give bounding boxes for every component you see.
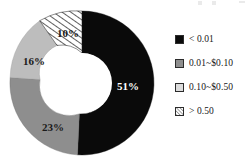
legend-label-gt-0-50: > 0.50: [189, 106, 214, 116]
slice-label-23: 23%: [42, 121, 64, 133]
legend-item-0-10-to-0-50[interactable]: 0.10~$0.50: [175, 81, 247, 93]
scan-artifact: [239, 1, 245, 3]
solid-black-swatch: [175, 35, 184, 44]
solid-light-gray-swatch: [175, 83, 184, 92]
hatched-swatch: [175, 107, 184, 116]
legend-item-lt-0-01[interactable]: < 0.01: [175, 33, 247, 45]
slice-label-16: 16%: [23, 55, 45, 67]
scan-artifact: [212, 1, 216, 5]
legend-item-gt-0-50[interactable]: > 0.50: [175, 105, 247, 117]
legend-item-0-01-to-0-10[interactable]: 0.01~$0.10: [175, 57, 247, 69]
legend-label-0-01-to-0-10: 0.01~$0.10: [189, 58, 233, 68]
legend-label-lt-0-01: < 0.01: [189, 34, 214, 44]
slice-label-10: 10%: [57, 27, 79, 39]
chart-legend: < 0.01 0.01~$0.10 0.10~$0.50 > 0.50: [175, 33, 247, 117]
scan-artifact: [198, 1, 202, 5]
legend-label-0-10-to-0-50: 0.10~$0.50: [189, 82, 233, 92]
donut-chart-svg: 51% 23% 16% 10%: [6, 4, 162, 160]
chart-page: 51% 23% 16% 10% < 0.01 0.01~$0.10 0.10~$…: [0, 0, 248, 162]
slice-label-51: 51%: [117, 80, 139, 92]
donut-chart: 51% 23% 16% 10%: [6, 4, 162, 160]
solid-gray-swatch: [175, 59, 184, 68]
donut-hole: [52, 53, 112, 113]
